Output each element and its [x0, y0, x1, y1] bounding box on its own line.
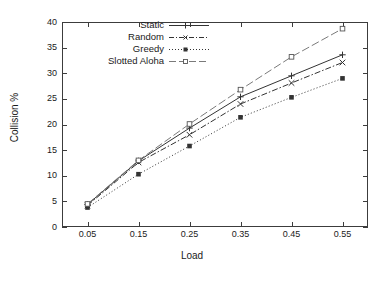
legend-sample-random — [168, 32, 210, 43]
legend-item-static: Static — [92, 19, 210, 31]
x-tick-top — [88, 22, 89, 27]
x-tick-label: 0.35 — [216, 230, 266, 239]
y-tick-right — [363, 227, 368, 228]
x-tick — [139, 222, 140, 227]
x-tick-label: 0.05 — [63, 230, 113, 239]
y-tick — [62, 73, 67, 74]
y-tick-right — [363, 99, 368, 100]
y-tick-right — [363, 22, 368, 23]
y-tick-label: 5 — [1, 197, 57, 206]
legend-sample-greedy — [168, 44, 210, 55]
legend-item-greedy: Greedy — [92, 43, 210, 55]
y-tick-label: 35 — [1, 43, 57, 52]
legend-label-slotted-aloha: Slotted Aloha — [108, 56, 168, 66]
y-tick — [62, 22, 67, 23]
y-tick — [62, 201, 67, 202]
x-tick — [241, 222, 242, 227]
x-tick-label: 0.25 — [165, 230, 215, 239]
x-tick-label: 0.45 — [267, 230, 317, 239]
y-axis-title: Collision % — [9, 78, 20, 158]
x-tick — [190, 222, 191, 227]
y-tick — [62, 99, 67, 100]
x-tick-top — [241, 22, 242, 27]
y-tick-label: 0 — [1, 223, 57, 232]
y-tick-right — [363, 125, 368, 126]
y-tick — [62, 125, 67, 126]
y-tick-right — [363, 176, 368, 177]
legend-sample-static — [168, 20, 210, 31]
x-tick-label: 0.15 — [114, 230, 164, 239]
legend-label-greedy: Greedy — [133, 44, 168, 54]
legend-label-static: Static — [140, 20, 168, 30]
y-tick-right — [363, 73, 368, 74]
x-axis-title: Load — [0, 250, 384, 261]
x-tick — [343, 222, 344, 227]
chart-canvas: 05101520253035400.050.150.250.350.450.55… — [0, 0, 384, 284]
y-tick-right — [363, 150, 368, 151]
y-tick-label: 40 — [1, 18, 57, 27]
y-tick — [62, 176, 67, 177]
y-tick-right — [363, 48, 368, 49]
legend-sample-slotted-aloha — [168, 56, 210, 67]
x-tick-top — [343, 22, 344, 27]
x-tick-label: 0.55 — [318, 230, 368, 239]
y-tick-label: 30 — [1, 69, 57, 78]
legend-item-random: Random — [92, 31, 210, 43]
legend-label-random: Random — [128, 32, 168, 42]
y-tick — [62, 227, 67, 228]
y-tick-right — [363, 201, 368, 202]
x-tick-top — [292, 22, 293, 27]
x-tick — [292, 222, 293, 227]
y-tick — [62, 48, 67, 49]
legend-item-slotted-aloha: Slotted Aloha — [92, 55, 210, 67]
y-tick-label: 10 — [1, 171, 57, 180]
chart-legend: Static Random — [92, 19, 210, 67]
y-tick — [62, 150, 67, 151]
x-tick — [88, 222, 89, 227]
